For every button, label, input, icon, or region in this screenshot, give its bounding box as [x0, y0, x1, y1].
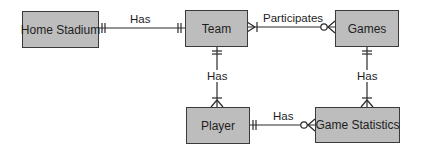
entity-games: Games	[335, 10, 399, 47]
label-team-games: Participates	[263, 12, 323, 24]
entity-game-statistics: Game Statistics	[315, 107, 400, 143]
label-games-gamestats: Has	[357, 70, 377, 82]
entity-home-stadium: Home Stadium	[22, 11, 99, 48]
label-team-player: Has	[207, 70, 227, 82]
entity-player: Player	[186, 107, 250, 144]
entity-team: Team	[185, 10, 248, 47]
label-player-gamestats: Has	[273, 110, 293, 122]
label-stadium-team: Has	[130, 13, 150, 25]
